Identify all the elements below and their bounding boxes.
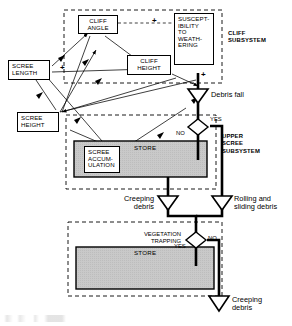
arrowhead-mark-e: [74, 117, 81, 124]
decision-vegetation-question: VEGETATION TRAPPING: [113, 231, 181, 244]
arrowhead-mark-d: [95, 78, 102, 85]
diamond-upper-scree-decision: [188, 119, 208, 135]
pipe-rolling-merge: [196, 208, 222, 216]
decision-vegetation-no-label: NO: [208, 235, 217, 241]
sign-scree-length-to-cliff-height: +: [60, 64, 65, 72]
node-susceptibility-to-weathering[interactable]: SUSCEPT- IBILITY TO WEATH- ERING: [174, 13, 214, 65]
valve-creeping-debris-mid: [158, 196, 178, 210]
decision-upper-yes-label: YES: [210, 116, 222, 122]
node-scree-accumulation[interactable]: SCREE ACCUM- ULATION: [84, 146, 120, 173]
valve-creeping-debris-bottom: [209, 296, 229, 311]
link-scree-length-to-cliff-angle: [52, 33, 88, 66]
node-scree-height[interactable]: SCREE HEIGHT: [17, 112, 59, 132]
diagram-vector-layer: [0, 0, 292, 326]
node-scree-length[interactable]: SCREE LENGTH: [8, 60, 50, 80]
node-cliff-height[interactable]: CLIFF HEIGHT: [127, 55, 171, 75]
decision-vegetation-yes-label: YES: [174, 243, 186, 249]
diamond-vegetation-decision: [186, 232, 206, 248]
arrowhead-mark-b: [82, 59, 89, 66]
flow-label-debris-fall: Debris fall: [211, 91, 244, 99]
sign-cliff-angle-to-susceptibility: +: [152, 17, 157, 25]
store-label-lower: STORE: [134, 250, 156, 257]
sign-susceptibility-to-debris-fall: +: [201, 71, 206, 79]
arrowhead-mark-c: [36, 92, 43, 99]
flow-label-rolling-sliding-debris: Rolling and sliding debris: [234, 195, 277, 212]
store-label-upper: STORE: [134, 145, 156, 152]
caption-upper-scree-subsystem: UPPER SCREE SUBSYSTEM: [222, 133, 260, 155]
flow-label-creeping-debris-mid: Creeping debris: [104, 195, 154, 212]
pipe-creeping-merge: [168, 208, 196, 226]
node-cliff-angle[interactable]: CLIFF ANGLE: [78, 15, 118, 34]
page-caption-remnant: [4, 315, 82, 322]
arrowhead-mark-f: [157, 132, 164, 139]
flow-label-creeping-debris-bottom: Creeping debris: [232, 296, 262, 313]
link-scree-height-to-cliff-height-area: [60, 80, 196, 112]
valve-debris-fall: [188, 89, 208, 103]
valve-rolling-sliding-debris: [212, 196, 232, 210]
link-scree-height-to-cliff-angle: [60, 50, 96, 112]
decision-upper-no-label: NO: [176, 130, 185, 136]
caption-cliff-subsystem: CLIFF SUBSYSTEM: [228, 30, 266, 45]
diagram-canvas: CLIFF ANGLE SUSCEPT- IBILITY TO WEATH- E…: [0, 0, 292, 326]
link-cliff-height-to-debris-fall: [172, 74, 198, 86]
